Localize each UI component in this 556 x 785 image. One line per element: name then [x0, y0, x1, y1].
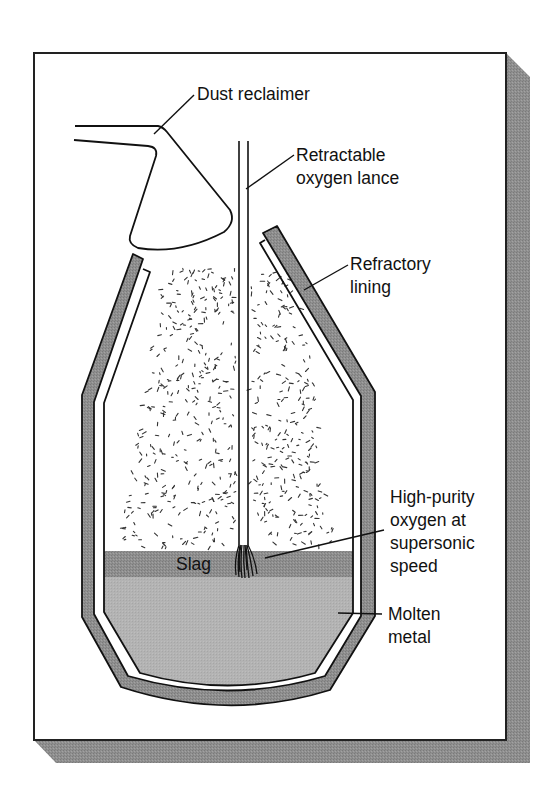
label-slag: Slag	[176, 554, 211, 574]
leader-molten	[338, 613, 382, 614]
label-oxygen-1: High-purity	[390, 487, 475, 507]
diagram-canvas: Dust reclaimer Retractable oxygen lance …	[0, 0, 556, 785]
label-dust-reclaimer: Dust reclaimer	[197, 84, 310, 104]
label-refractory-2: lining	[350, 277, 391, 297]
label-lance-2: oxygen lance	[296, 168, 399, 188]
label-refractory-1: Refractory	[350, 254, 431, 274]
label-molten-2: metal	[388, 627, 431, 647]
label-oxygen-4: speed	[390, 556, 438, 576]
molten-metal	[104, 577, 353, 686]
label-oxygen-3: supersonic	[390, 533, 475, 553]
label-lance-1: Retractable	[296, 145, 386, 165]
slag-layer	[104, 551, 353, 577]
label-oxygen-2: oxygen at	[390, 510, 466, 530]
label-molten-1: Molten	[388, 604, 441, 624]
